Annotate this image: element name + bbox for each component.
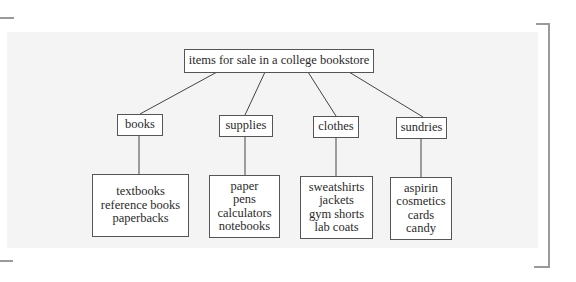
category-node-books: books [117,114,163,136]
tree-connectors [0,0,576,282]
category-node-sundries: sundries [396,117,447,139]
connector-root-supplies [245,72,265,115]
leaf-item: textbooks [116,185,165,199]
leaf-node-books: textbooks reference books paperbacks [92,174,189,237]
leaf-node-supplies: paper pens calculators notebooks [209,175,280,238]
root-node: items for sale in a college bookstore [184,49,374,73]
root-label: items for sale in a college bookstore [189,54,370,68]
leaf-item: lab coats [314,221,358,235]
leaf-item: cosmetics [396,195,445,209]
leaf-item: notebooks [219,220,270,234]
leaf-item: paperbacks [112,212,168,226]
connector-root-books [140,72,217,114]
leaf-item: aspirin [404,182,438,196]
leaf-item: pens [233,193,256,207]
leaf-node-clothes: sweatshirts jackets gym shorts lab coats [300,176,373,239]
leaf-node-sundries: aspirin cosmetics cards candy [390,177,452,240]
category-label: clothes [318,120,353,134]
leaf-item: candy [406,222,436,236]
leaf-item: sweatshirts [309,181,365,195]
category-node-supplies: supplies [219,115,273,137]
leaf-item: gym shorts [309,208,364,222]
leaf-item: reference books [101,199,180,213]
leaf-item: cards [408,209,434,223]
connector-root-sundries [349,72,423,117]
connector-root-clothes [308,72,336,116]
category-label: sundries [401,121,443,135]
category-node-clothes: clothes [313,116,359,138]
category-label: supplies [226,119,267,133]
leaf-item: jackets [319,194,354,208]
category-label: books [125,118,155,132]
leaf-item: calculators [217,207,271,221]
leaf-item: paper [231,180,259,194]
